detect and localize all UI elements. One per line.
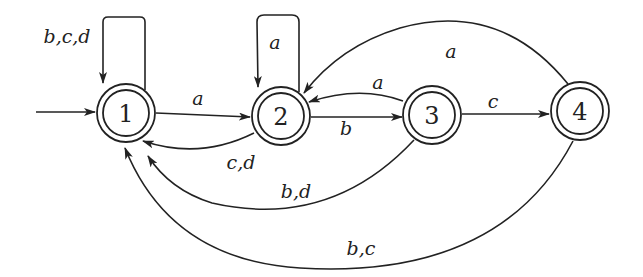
diagram-svg: 1 2 3 4 b,c,d a a c,d b a c b,d a b,c [0,0,643,277]
edge-1-1 [103,17,145,90]
edge-1-2 [156,113,250,117]
label-edge-2-3: b [340,117,352,139]
label-edge-3-4: c [488,90,499,112]
label-edge-4-2: a [445,40,456,62]
edge-2-1 [143,133,254,149]
state-2-label: 2 [273,103,288,131]
label-edge-3-2: a [372,71,383,93]
state-3-label: 3 [424,102,439,130]
label-edge-2-2: a [269,31,280,53]
label-edge-1-1: b,c,d [43,25,90,47]
label-edge-2-1: c,d [227,151,256,173]
state-2: 2 [252,87,310,145]
label-edge-1-2: a [192,87,203,109]
state-3: 3 [403,86,461,144]
state-1-label: 1 [118,100,133,128]
label-edge-4-1: b,c [347,237,376,259]
state-1: 1 [97,84,155,142]
automaton-diagram: 1 2 3 4 b,c,d a a c,d b a c b,d a b,c [0,0,643,277]
edge-3-2 [309,93,403,102]
edge-2-2 [257,15,299,92]
edge-4-2 [304,21,568,93]
state-4: 4 [551,82,609,140]
state-4-label: 4 [572,98,587,126]
label-edge-3-1: b,d [281,180,311,202]
